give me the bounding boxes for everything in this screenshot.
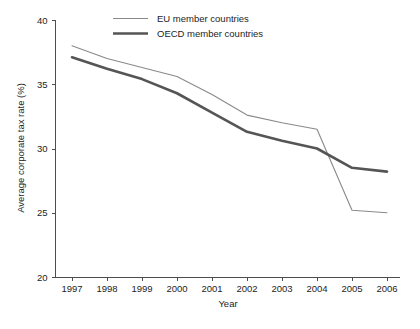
x-tick-label: 1998: [96, 283, 117, 294]
series-line-oecd: [72, 57, 387, 171]
x-tick-label: 2006: [376, 283, 397, 294]
x-tick-label: 2000: [166, 283, 187, 294]
y-tick-label: 25: [37, 207, 48, 218]
chart-figure: 2025303540 19971998199920002001200220032…: [0, 0, 420, 329]
x-tick-label: 2003: [271, 283, 292, 294]
y-tick-label: 20: [37, 272, 48, 283]
x-tick-label: 1999: [131, 283, 152, 294]
line-chart-svg: 2025303540 19971998199920002001200220032…: [0, 0, 420, 329]
x-axis-title: Year: [218, 298, 237, 309]
x-tick-label: 1997: [61, 283, 82, 294]
y-axis-ticks: 2025303540: [37, 15, 56, 283]
legend-label-eu: EU member countries: [157, 13, 249, 24]
y-tick-label: 30: [37, 143, 48, 154]
legend-label-oecd: OECD member countries: [157, 28, 263, 39]
x-axis-ticks: 1997199819992000200120022003200420052006: [61, 277, 397, 294]
x-tick-label: 2001: [201, 283, 222, 294]
y-tick-label: 40: [37, 15, 48, 26]
x-tick-label: 2005: [341, 283, 362, 294]
x-tick-label: 2002: [236, 283, 257, 294]
chart-legend: EU member countries OECD member countrie…: [113, 13, 263, 39]
x-tick-label: 2004: [306, 283, 327, 294]
y-tick-label: 35: [37, 79, 48, 90]
y-axis-title: Average corporate tax rate (%): [15, 83, 26, 213]
series-line-eu: [72, 46, 387, 213]
series-layer: [72, 46, 387, 213]
